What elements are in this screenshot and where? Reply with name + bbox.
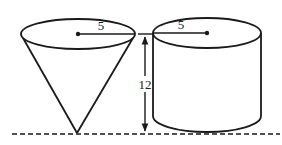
cylinder: 5 — [153, 17, 261, 132]
height-label: 12 — [139, 77, 152, 92]
cylinder-radius-label: 5 — [178, 17, 185, 32]
cone: 5 — [21, 18, 135, 133]
cylinder-bottom-arc — [153, 116, 261, 132]
diagram-canvas: 5 12 5 — [0, 0, 282, 145]
height-dimension: 12 — [138, 34, 153, 131]
cone-right-side — [77, 38, 133, 133]
cone-radius-label: 5 — [98, 18, 105, 33]
cone-left-side — [23, 38, 77, 133]
